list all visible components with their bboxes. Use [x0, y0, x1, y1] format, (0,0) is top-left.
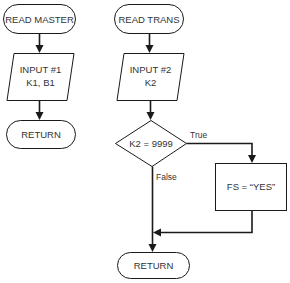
- arrow-down-icon: [149, 244, 157, 252]
- terminal-return-1-label: RETURN: [21, 129, 61, 140]
- arrow-down-icon: [36, 45, 44, 53]
- arrow-left-icon: [153, 229, 161, 237]
- arrow-down-icon: [36, 112, 44, 120]
- input-1-line1: INPUT #1: [20, 64, 62, 75]
- arrow-down-icon: [248, 155, 256, 163]
- terminal-return-2-label: RETURN: [134, 260, 174, 271]
- right-flow: READ TRANS INPUT #2 K2 K2 = 9999 True FS…: [115, 5, 287, 279]
- process-label: FS = “YES”: [227, 181, 275, 192]
- left-flow: READ MASTER INPUT #1 K1, B1 RETURN: [4, 5, 76, 149]
- input-2-line2: K2: [145, 77, 157, 88]
- decision-label: K2 = 9999: [129, 138, 173, 149]
- true-connector: [187, 144, 253, 157]
- terminal-read-master-label: READ MASTER: [5, 14, 74, 25]
- false-label: False: [156, 172, 177, 182]
- input-1-line2: K1, B1: [26, 77, 55, 88]
- terminal-read-trans-label: READ TRANS: [118, 14, 179, 25]
- true-label: True: [190, 130, 207, 140]
- merge-connector: [161, 211, 252, 233]
- arrow-down-icon: [147, 112, 155, 120]
- arrow-down-icon: [146, 45, 154, 53]
- input-2-line1: INPUT #2: [130, 64, 172, 75]
- flowchart-canvas: READ MASTER INPUT #1 K1, B1 RETURN READ …: [0, 0, 290, 283]
